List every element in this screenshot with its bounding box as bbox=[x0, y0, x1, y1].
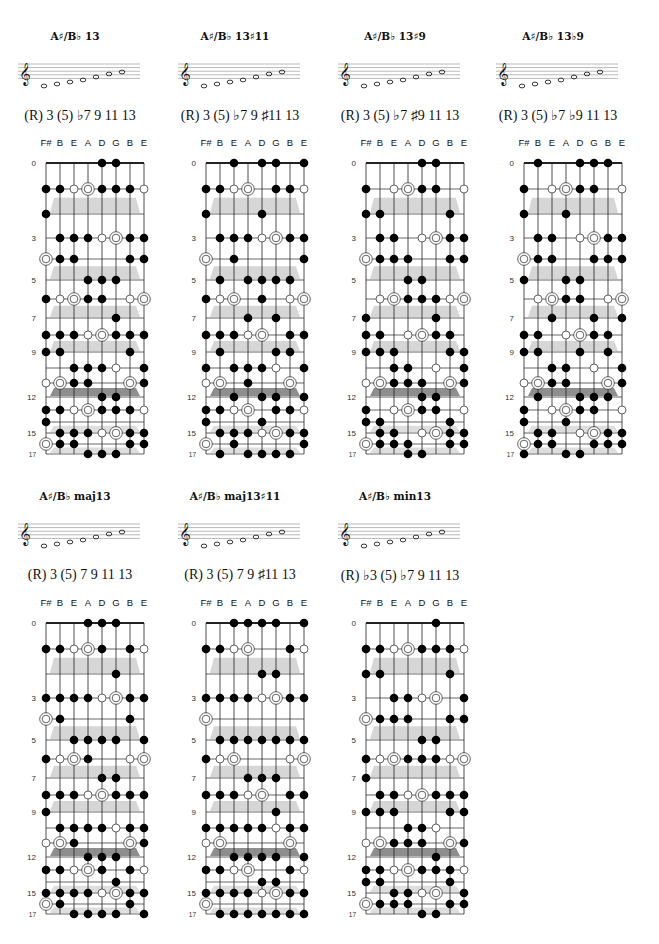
optional-note-dot bbox=[258, 234, 266, 242]
optional-note-dot bbox=[286, 295, 294, 303]
note-dot bbox=[84, 234, 93, 243]
optional-note-dot bbox=[300, 406, 308, 414]
note-dot bbox=[216, 645, 225, 654]
note-dot bbox=[376, 348, 385, 357]
note-dot bbox=[362, 210, 371, 219]
note-dot bbox=[604, 348, 613, 357]
note-dot bbox=[390, 808, 399, 817]
note-dot bbox=[216, 276, 225, 285]
optional-note-dot bbox=[300, 185, 308, 193]
root-note-dot bbox=[546, 293, 559, 306]
fret-number: 5 bbox=[192, 736, 197, 745]
note-dot bbox=[300, 824, 309, 833]
root-note-dot bbox=[588, 232, 601, 245]
note-dot bbox=[446, 331, 455, 340]
note-dot bbox=[604, 429, 613, 438]
note-dot bbox=[202, 210, 211, 219]
root-note-dot bbox=[40, 253, 53, 266]
note-dot bbox=[390, 429, 399, 438]
note-dot bbox=[230, 853, 239, 862]
note-dot bbox=[126, 331, 135, 340]
note-dot bbox=[112, 878, 121, 887]
optional-note-dot bbox=[258, 694, 266, 702]
note-dot bbox=[202, 866, 211, 875]
fret-number: 17 bbox=[29, 451, 37, 458]
note-dot bbox=[520, 348, 529, 357]
note-dot bbox=[42, 694, 51, 703]
note-dot bbox=[376, 670, 385, 679]
note-dot bbox=[432, 736, 441, 745]
fret-number: 17 bbox=[189, 451, 197, 458]
note-dot bbox=[300, 736, 309, 745]
fret-number: 0 bbox=[192, 159, 197, 168]
root-note-dot bbox=[138, 753, 151, 766]
note-dot bbox=[202, 185, 211, 194]
note-dot bbox=[244, 910, 253, 919]
note-dot bbox=[244, 824, 253, 833]
root-note-dot bbox=[402, 643, 415, 656]
note-dot bbox=[432, 314, 441, 323]
root-note-dot bbox=[200, 713, 213, 726]
note-dot bbox=[286, 406, 295, 415]
note-dot bbox=[84, 736, 93, 745]
note-dot bbox=[432, 393, 441, 402]
root-note-dot bbox=[574, 329, 587, 342]
note-dot bbox=[460, 694, 469, 703]
fret-number: 15 bbox=[347, 889, 356, 898]
note-dot bbox=[376, 210, 385, 219]
note-dot bbox=[418, 866, 427, 875]
note-dot bbox=[272, 406, 281, 415]
fret-number: 3 bbox=[352, 234, 357, 243]
fret-marker-band bbox=[50, 848, 140, 856]
note-dot bbox=[432, 406, 441, 415]
optional-note-dot bbox=[84, 331, 92, 339]
note-dot bbox=[446, 715, 455, 724]
note-dot bbox=[70, 889, 79, 898]
optional-note-dot bbox=[390, 866, 398, 874]
note-dot bbox=[230, 694, 239, 703]
fret-marker-band bbox=[50, 801, 140, 811]
optional-note-dot bbox=[548, 185, 556, 193]
note-dot bbox=[42, 418, 51, 427]
note-dot bbox=[590, 255, 599, 264]
fret-number: 9 bbox=[192, 808, 197, 817]
note-dot bbox=[404, 900, 413, 909]
note-dot bbox=[84, 429, 93, 438]
note-dot bbox=[140, 429, 149, 438]
optional-note-dot bbox=[390, 406, 398, 414]
note-dot bbox=[534, 393, 543, 402]
root-note-dot bbox=[256, 329, 269, 342]
optional-note-dot bbox=[534, 295, 542, 303]
root-note-dot bbox=[54, 837, 67, 850]
note-dot bbox=[446, 429, 455, 438]
fret-number: 5 bbox=[510, 276, 515, 285]
root-note-dot bbox=[602, 377, 615, 390]
optional-note-dot bbox=[56, 295, 64, 303]
note-dot bbox=[404, 694, 413, 703]
note-dot bbox=[362, 878, 371, 887]
note-dot bbox=[98, 185, 107, 194]
note-dot bbox=[56, 348, 65, 357]
fretboard-diagram: 03579121517 bbox=[320, 0, 480, 460]
note-dot bbox=[376, 715, 385, 724]
note-dot bbox=[216, 736, 225, 745]
note-dot bbox=[460, 839, 469, 848]
fret-marker-band bbox=[50, 198, 140, 213]
note-dot bbox=[230, 910, 239, 919]
note-dot bbox=[202, 364, 211, 373]
root-note-dot bbox=[616, 293, 629, 306]
root-note-dot bbox=[270, 887, 283, 900]
note-dot bbox=[230, 429, 239, 438]
fret-marker-band bbox=[210, 306, 300, 317]
note-dot bbox=[112, 910, 121, 919]
note-dot bbox=[70, 910, 79, 919]
fretboard-diagram: 03579121517 bbox=[160, 0, 320, 460]
root-note-dot bbox=[298, 753, 311, 766]
note-dot bbox=[418, 185, 427, 194]
root-note-dot bbox=[444, 837, 457, 850]
note-dot bbox=[562, 295, 571, 304]
note-dot bbox=[460, 900, 469, 909]
note-dot bbox=[618, 429, 627, 438]
note-dot bbox=[446, 234, 455, 243]
note-dot bbox=[390, 694, 399, 703]
